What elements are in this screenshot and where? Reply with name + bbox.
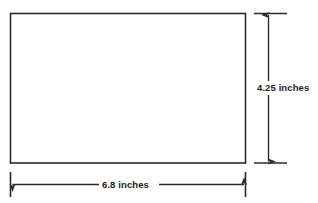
diagram-canvas (0, 0, 318, 203)
width-dimension-label: 6.8 inches (99, 180, 152, 190)
height-dimension-label: 4.25 inches (256, 81, 310, 95)
main-rectangle (11, 14, 246, 164)
rectangle-dimension-diagram: 6.8 inches 4.25 inches (0, 0, 318, 203)
